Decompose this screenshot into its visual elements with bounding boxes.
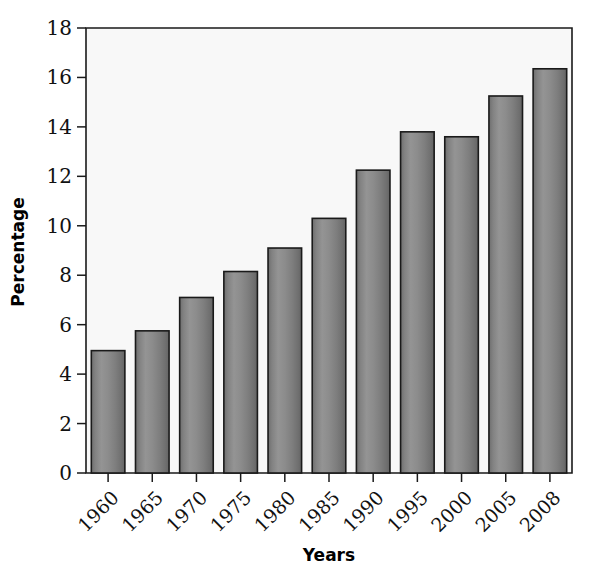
x-tick-label: 1960 — [73, 486, 123, 536]
bar — [135, 331, 169, 473]
bar-chart-figure: 024681012141618 196019651970197519801985… — [0, 0, 596, 574]
x-tick-label: 1970 — [162, 486, 212, 536]
y-tick-label: 10 — [47, 214, 72, 238]
x-tick-label: 2008 — [515, 486, 565, 536]
bar — [91, 351, 125, 473]
y-tick-label: 14 — [47, 115, 72, 139]
bar — [224, 272, 258, 473]
y-tick-label: 12 — [47, 164, 72, 188]
x-axis-tick-labels: 1960196519701975198019851990199520002005… — [73, 486, 565, 536]
x-tick-label: 1985 — [294, 486, 344, 536]
chart-canvas: 024681012141618 196019651970197519801985… — [0, 0, 596, 574]
x-tick-label: 2000 — [427, 486, 477, 536]
y-tick-label: 0 — [59, 461, 72, 485]
x-axis-title: Years — [302, 545, 355, 565]
y-axis-ticks — [77, 28, 86, 473]
x-tick-label: 2005 — [471, 486, 521, 536]
x-tick-label: 1995 — [382, 486, 432, 536]
x-tick-label: 1980 — [250, 486, 300, 536]
x-tick-label: 1990 — [338, 486, 388, 536]
y-tick-label: 6 — [59, 313, 72, 337]
y-axis-tick-labels: 024681012141618 — [47, 16, 72, 485]
y-tick-label: 18 — [47, 16, 72, 40]
bar — [445, 137, 479, 473]
y-axis-title: Percentage — [8, 197, 28, 306]
bar — [180, 297, 214, 473]
y-tick-label: 4 — [59, 362, 72, 386]
bar — [268, 248, 302, 473]
x-tick-label: 1975 — [206, 486, 256, 536]
y-tick-label: 2 — [59, 412, 72, 436]
bar — [533, 69, 567, 473]
bar — [401, 132, 435, 473]
y-tick-label: 16 — [47, 65, 72, 89]
y-tick-label: 8 — [59, 263, 72, 287]
x-tick-label: 1965 — [117, 486, 167, 536]
bar — [356, 170, 390, 473]
bar — [312, 218, 346, 473]
bar — [489, 96, 523, 473]
x-axis-ticks — [108, 473, 550, 482]
